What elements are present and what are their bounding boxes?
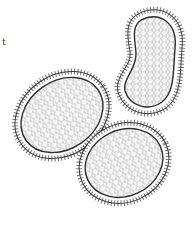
cell-illustration xyxy=(0,0,196,226)
top-right-kidney-cell xyxy=(117,10,182,114)
